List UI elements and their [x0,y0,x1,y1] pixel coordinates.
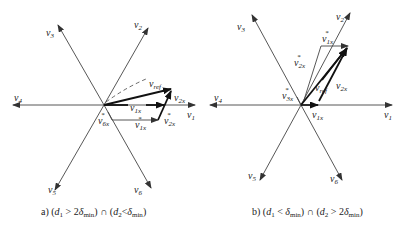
label-v1x-star-a: v1x* [135,115,147,132]
label-v2x-b: v2x [336,80,348,93]
label-v1x-a: v1x [130,102,142,115]
label-v6x-star-a: v6x* [98,111,110,128]
label-v4-a: v4 [14,92,22,105]
vref-vector-b [322,49,346,80]
label-vref-a: vref [149,78,162,91]
axis-lines-a [13,25,195,190]
axis-lines-b [210,13,392,180]
label-v2x-a: v2x [174,92,186,105]
label-v5-b: v5 [248,170,256,183]
label-v2-a: v2 [134,19,142,32]
axis-v5 [55,105,104,190]
v3x-star-b [297,97,301,105]
label-v6-a: v6 [134,184,142,197]
label-v3-a: v3 [46,27,54,40]
v1x-star-path-a [108,112,158,120]
space-vector-diagrams: v3 v2 v4 v1 v5 v6 vref v2x v1x v2x* v1x*… [0,0,402,229]
label-v3-b: v3 [237,21,245,34]
caption-b: b) (d1 < δmin) ∩ (d2 > 2δmin) [252,206,363,219]
panel-a: v3 v2 v4 v1 v5 v6 vref v2x v1x v2x* v1x*… [13,19,195,219]
caption-a: a) (d1 > 2δmin) ∩ (d2<δmin) [41,206,146,219]
axis-v3 [58,25,104,105]
label-v4-b: v4 [214,92,222,105]
label-v1x-b: v1x [312,109,324,122]
label-v6-b: v6 [330,173,338,186]
label-v2x-star-b: v2x* [294,53,306,70]
axis-v5 [260,105,301,180]
label-v2-b: v2 [336,11,344,24]
label-v1x-star-b: v1x* [322,29,334,46]
vref-vector-a [104,89,171,105]
label-v2x-star-a: v2x* [164,111,176,128]
axis-v2 [104,28,148,105]
label-v5-a: v5 [48,184,56,197]
label-v1-a: v1 [187,109,195,122]
label-v1-b: v1 [384,109,392,122]
panel-b: v3 v2 v4 v1 v5 v6 v1x* v2x* vref v2x v3x… [210,11,392,219]
label-vref-b: vref [315,82,328,95]
